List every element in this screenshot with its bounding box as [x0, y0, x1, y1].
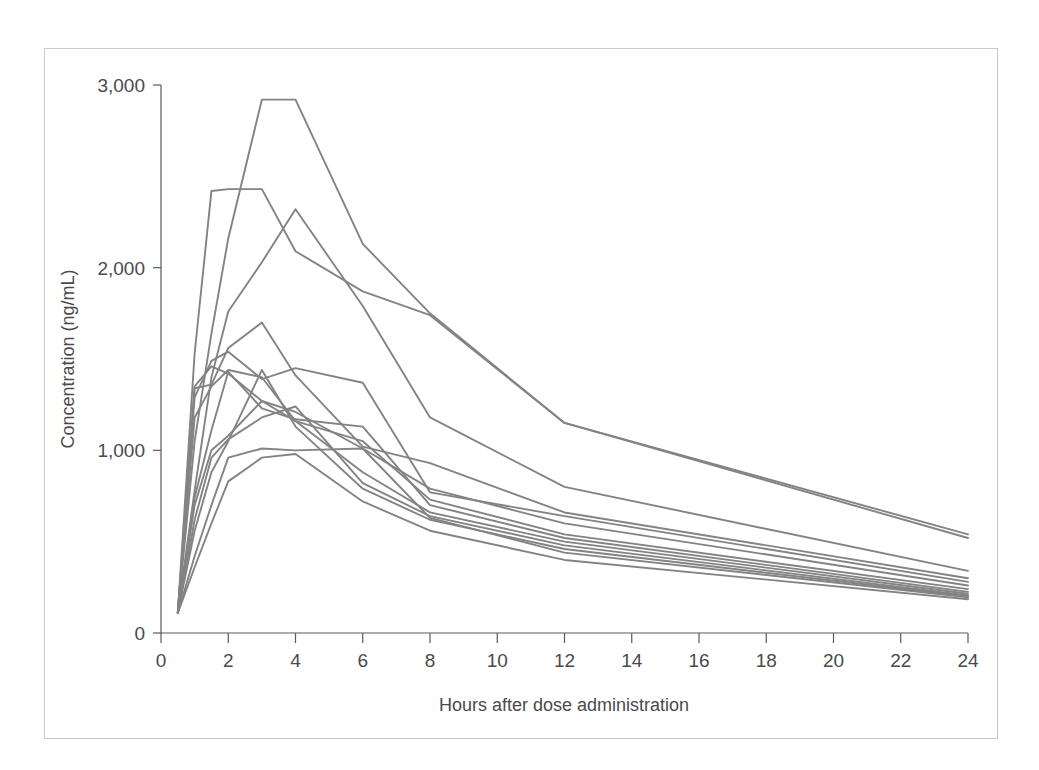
series-line-subject-03	[178, 209, 968, 613]
x-axis-tick-labels: 024681012141618202224	[156, 650, 979, 671]
y-tick-label-2000: 2,000	[97, 258, 145, 279]
x-tick-label-18: 18	[756, 650, 777, 671]
y-axis-ticks	[153, 85, 161, 633]
x-tick-label-24: 24	[957, 650, 979, 671]
x-axis-ticks	[161, 633, 968, 643]
x-tick-label-12: 12	[554, 650, 575, 671]
x-axis-title: Hours after dose administration	[439, 695, 689, 715]
x-tick-label-6: 6	[357, 650, 368, 671]
data-lines-group	[178, 100, 968, 613]
y-axis-title: Concentration (ng/mL)	[58, 269, 78, 448]
line-chart-plot: 01,0002,0003,000 024681012141618202224 H…	[0, 0, 1039, 770]
series-line-subject-13	[178, 454, 968, 613]
x-tick-label-10: 10	[487, 650, 508, 671]
x-tick-label-22: 22	[890, 650, 911, 671]
y-tick-label-1000: 1,000	[97, 440, 145, 461]
y-tick-label-3000: 3,000	[97, 75, 145, 96]
x-tick-label-8: 8	[425, 650, 436, 671]
x-tick-label-0: 0	[156, 650, 167, 671]
x-tick-label-4: 4	[290, 650, 301, 671]
x-tick-label-16: 16	[688, 650, 709, 671]
series-line-subject-04	[178, 322, 968, 612]
x-tick-label-20: 20	[823, 650, 844, 671]
x-tick-label-2: 2	[223, 650, 234, 671]
x-tick-label-14: 14	[621, 650, 643, 671]
figure-container: 01,0002,0003,000 024681012141618202224 H…	[0, 0, 1039, 770]
y-axis-tick-labels: 01,0002,0003,000	[97, 75, 145, 644]
y-tick-label-0: 0	[134, 623, 145, 644]
